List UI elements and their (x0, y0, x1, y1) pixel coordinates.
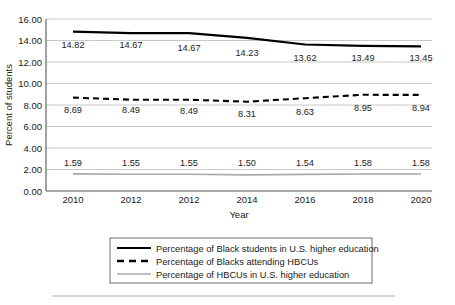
data-label: 13.45 (410, 53, 433, 63)
y-tick-label: 4.00 (24, 143, 43, 154)
y-tick-label: 8.00 (24, 100, 43, 111)
data-label: 8.63 (296, 107, 314, 117)
data-label: 1.54 (296, 158, 314, 168)
x-tick-label: 2018 (352, 194, 373, 205)
y-tick-label: 6.00 (24, 121, 43, 132)
data-label: 8.95 (354, 103, 372, 113)
data-label: 1.55 (122, 158, 140, 168)
data-label: 13.62 (294, 53, 317, 63)
x-tick-label: 2010 (62, 194, 83, 205)
x-tick-label: 2012 (120, 194, 141, 205)
chart-figure: 16.00 14.00 12.00 10.00 8.00 6.00 4.00 2… (0, 0, 455, 305)
y-tick-label: 12.00 (18, 57, 42, 68)
legend-item-label: Percentage of Black students in U.S. hig… (156, 244, 379, 254)
x-axis-tick-labels: 2010 2012 2012 2014 2016 2018 2020 (62, 194, 431, 205)
x-tick-label: 2016 (294, 194, 315, 205)
data-label: 8.69 (64, 105, 82, 115)
data-label: 8.94 (412, 103, 430, 113)
chart-svg: 16.00 14.00 12.00 10.00 8.00 6.00 4.00 2… (0, 0, 455, 305)
data-label: 14.82 (62, 40, 85, 50)
legend-item-label: Percentage of HBCUs in U.S. higher educa… (156, 270, 349, 280)
data-label: 8.31 (238, 109, 256, 119)
data-label: 1.58 (354, 158, 372, 168)
y-axis-tick-labels: 16.00 14.00 12.00 10.00 8.00 6.00 4.00 2… (18, 14, 42, 197)
data-label: 14.23 (236, 48, 259, 58)
series-line-blacks-at-hbcus (73, 95, 421, 102)
data-label: 1.55 (180, 158, 198, 168)
data-label: 14.67 (178, 43, 201, 53)
series-line-hbcus-share (73, 174, 421, 175)
data-label: 1.59 (64, 158, 82, 168)
y-tick-label: 2.00 (24, 164, 43, 175)
data-label: 8.49 (122, 105, 140, 115)
data-label: 14.67 (120, 40, 143, 50)
legend-item-label: Percentage of Blacks attending HBCUs (156, 257, 319, 267)
data-label: 1.58 (412, 158, 430, 168)
x-tick-label: 2020 (410, 194, 431, 205)
data-label: 8.49 (180, 106, 198, 116)
y-tick-label: 0.00 (24, 186, 43, 197)
chart-legend: Percentage of Black students in U.S. hig… (110, 238, 379, 283)
y-axis-title: Percent of students (3, 64, 14, 146)
y-tick-label: 16.00 (18, 14, 42, 25)
x-axis-title: Year (229, 209, 248, 220)
data-labels-hbcus-share: 1.59 1.55 1.55 1.50 1.54 1.58 1.58 (64, 158, 430, 168)
data-labels-black-students: 14.82 14.67 14.67 14.23 13.62 13.49 13.4… (62, 40, 433, 63)
x-tick-label: 2014 (236, 194, 257, 205)
data-label: 1.50 (238, 158, 256, 168)
x-tick-label: 2012 (178, 194, 199, 205)
data-label: 13.49 (352, 53, 375, 63)
y-tick-label: 14.00 (18, 35, 42, 46)
y-tick-label: 10.00 (18, 78, 42, 89)
